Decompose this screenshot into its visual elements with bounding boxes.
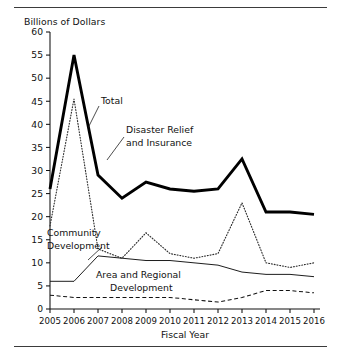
line-chart-plot: 051015202530354045505560 200520062007200… — [0, 0, 341, 354]
x-axis-group: 2005200620072008200920102011201220132014… — [39, 309, 325, 326]
y-tick-label: 45 — [31, 96, 43, 107]
annotation-community-line1: Community — [47, 227, 101, 238]
series-line-community-development — [50, 256, 314, 281]
annotation-community-line2: Development — [47, 240, 110, 251]
figure-container: Billions of Dollars 05101520253035404550… — [0, 0, 341, 354]
x-tick-label: 2016 — [303, 316, 325, 326]
x-tick-label: 2007 — [87, 316, 109, 326]
series-line-area-and-regional-development — [50, 291, 314, 303]
x-tick-label: 2011 — [183, 316, 205, 326]
y-tick-label: 60 — [31, 26, 43, 37]
x-axis-ticks: 2005200620072008200920102011201220132014… — [39, 309, 325, 326]
leader-line-disaster — [107, 137, 124, 160]
y-tick-label: 15 — [31, 234, 43, 245]
x-tick-label: 2009 — [135, 316, 157, 326]
annotation-disaster-line1: Disaster Relief — [126, 124, 194, 135]
x-tick-label: 2013 — [231, 316, 253, 326]
y-tick-label: 20 — [31, 211, 43, 222]
x-tick-label: 2008 — [111, 316, 133, 326]
x-tick-label: 2012 — [207, 316, 229, 326]
y-tick-label: 55 — [31, 49, 43, 60]
y-tick-label: 25 — [31, 188, 43, 199]
y-tick-label: 5 — [37, 280, 43, 291]
x-tick-label: 2015 — [279, 316, 301, 326]
y-tick-label: 0 — [37, 303, 43, 314]
x-tick-label: 2006 — [63, 316, 85, 326]
y-tick-label: 30 — [31, 165, 43, 176]
x-tick-label: 2010 — [159, 316, 181, 326]
x-tick-label: 2014 — [255, 316, 277, 326]
y-tick-label: 40 — [31, 119, 43, 130]
annotation-disaster-line2: and Insurance — [126, 137, 192, 148]
annotation-area-line1: Area and Regional — [96, 269, 181, 280]
bottom-divider-rule — [14, 346, 327, 347]
y-axis-ticks: 051015202530354045505560 — [31, 26, 50, 314]
x-tick-label: 2005 — [39, 316, 61, 326]
y-tick-label: 35 — [31, 142, 43, 153]
leader-line-total — [88, 106, 99, 128]
y-tick-label: 50 — [31, 72, 43, 83]
x-axis-title: Fiscal Year — [161, 329, 209, 340]
annotation-total: Total — [100, 95, 123, 106]
annotation-area-line2: Development — [110, 282, 173, 293]
annotation-group: Total Disaster Relief and Insurance Comm… — [47, 95, 194, 293]
y-axis-group: 051015202530354045505560 — [31, 26, 50, 314]
series-group — [50, 55, 314, 302]
y-tick-label: 10 — [31, 257, 43, 268]
